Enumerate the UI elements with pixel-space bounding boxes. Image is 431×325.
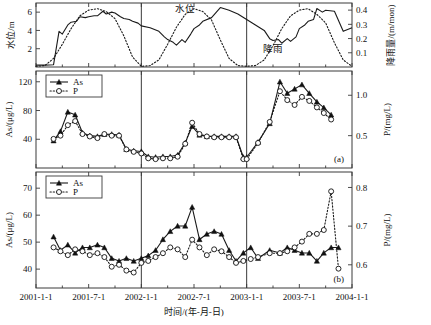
marker-P	[277, 251, 282, 256]
y-axis-label-a: As/(μg/L)	[4, 102, 14, 138]
x-axis-label: 时间/(年-月-日)	[164, 306, 224, 317]
marker-P	[197, 245, 202, 250]
marker-P	[65, 123, 70, 128]
multi-panel-chart: 2460.10.20.30.4水位/m降雨量/(m/mon)水位降雨408012…	[0, 0, 431, 325]
marker-P	[73, 119, 78, 124]
marker-P	[212, 247, 217, 252]
marker-P	[117, 133, 122, 138]
marker-P	[219, 249, 224, 254]
marker-As	[277, 79, 282, 84]
legend-label-p: P	[73, 86, 78, 96]
marker-P	[139, 260, 144, 265]
ytick-label-left: 80	[23, 106, 33, 116]
ytick-label-left: 40	[23, 134, 33, 144]
legend-marker-p	[57, 89, 62, 94]
marker-P	[190, 237, 195, 242]
legend-marker-p	[57, 190, 62, 195]
marker-As	[227, 248, 232, 253]
ytick-label-left: 50	[23, 237, 33, 247]
marker-P	[329, 189, 334, 194]
marker-P	[204, 134, 209, 139]
panel-tag-b: (b)	[334, 274, 345, 284]
marker-P	[146, 156, 151, 161]
xtick-label: 2004-1-1	[336, 292, 369, 302]
ytick-label-right: 0.6	[356, 260, 368, 270]
legend-label-p: P	[73, 187, 78, 197]
ytick-label-left: 70	[23, 183, 33, 193]
marker-P	[51, 136, 56, 141]
ytick-label-left: 60	[23, 210, 33, 220]
ytick-label-right: 0.1	[356, 48, 367, 58]
y-axis-label-top: 水位/m	[5, 21, 16, 49]
xtick-label: 2003-7-1	[283, 292, 316, 302]
marker-P	[248, 257, 253, 262]
marker-P	[131, 149, 136, 154]
marker-P	[146, 258, 151, 263]
marker-P	[285, 98, 290, 103]
marker-P	[336, 266, 341, 271]
xtick-label: 2002-1-1	[125, 292, 158, 302]
marker-P	[175, 247, 180, 252]
marker-P	[73, 247, 78, 252]
marker-P	[183, 141, 188, 146]
marker-P	[58, 249, 63, 254]
marker-P	[51, 245, 56, 250]
series-line-P	[54, 191, 339, 272]
marker-As	[212, 229, 217, 234]
xtick-label: 2002-7-1	[178, 292, 211, 302]
marker-P	[190, 120, 195, 125]
marker-P	[168, 156, 173, 161]
marker-P	[160, 251, 165, 256]
marker-P	[219, 135, 224, 140]
marker-P	[139, 151, 144, 156]
marker-P	[65, 253, 70, 258]
marker-P	[153, 157, 158, 162]
ytick-label-right: 0.4	[356, 5, 368, 15]
panel-tag-a: (a)	[334, 154, 344, 164]
marker-P	[292, 102, 297, 107]
marker-P	[175, 154, 180, 159]
figure-root: 2460.10.20.30.4水位/m降雨量/(m/mon)水位降雨408012…	[0, 0, 431, 325]
marker-P	[299, 239, 304, 244]
ytick-label-left: 2	[28, 44, 33, 54]
marker-P	[197, 132, 202, 137]
marker-P	[227, 135, 232, 140]
marker-P	[168, 245, 173, 250]
ytick-label-left: 4	[28, 26, 33, 36]
marker-P	[329, 117, 334, 122]
marker-P	[102, 255, 107, 260]
marker-P	[204, 253, 209, 258]
marker-P	[124, 147, 129, 152]
marker-As	[65, 109, 70, 114]
marker-As	[248, 245, 253, 250]
ytick-label-right: 0.5	[356, 131, 368, 141]
marker-P	[241, 258, 246, 263]
marker-P	[160, 156, 165, 161]
marker-P	[307, 231, 312, 236]
y-axis-label-b: As/(μg/L)	[4, 212, 14, 248]
marker-P	[244, 157, 249, 162]
marker-P	[267, 119, 272, 124]
y2-axis-label-top: 降雨量/(m/mon)	[385, 5, 396, 66]
marker-P	[292, 245, 297, 250]
marker-P	[234, 135, 239, 140]
marker-P	[58, 133, 63, 138]
marker-P	[285, 249, 290, 254]
annotation-水位: 水位	[175, 3, 195, 14]
ytick-label-right: 0.8	[356, 183, 368, 193]
marker-P	[299, 94, 304, 99]
ytick-label-right: 0.3	[356, 20, 368, 30]
series-line-水位	[36, 8, 352, 66]
marker-P	[131, 270, 136, 275]
marker-P	[87, 134, 92, 139]
marker-As	[299, 82, 304, 87]
marker-As	[292, 86, 297, 91]
marker-P	[227, 255, 232, 260]
xtick-label: 2001-1-1	[20, 292, 53, 302]
marker-P	[307, 98, 312, 103]
marker-P	[212, 135, 217, 140]
marker-P	[80, 249, 85, 254]
xtick-label: 2003-1-1	[230, 292, 263, 302]
ytick-label-right: 1.0	[356, 90, 368, 100]
marker-P	[95, 251, 100, 256]
